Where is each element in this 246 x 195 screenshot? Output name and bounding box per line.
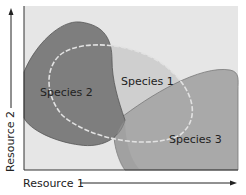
x-arrow-icon xyxy=(230,181,237,186)
species-1-label: Species 1 xyxy=(121,75,174,88)
x-axis-label: Resource 1 xyxy=(23,177,84,190)
y-axis-label: Resource 2 xyxy=(4,111,17,172)
species-3-label: Species 3 xyxy=(169,133,222,146)
species-2-label: Species 2 xyxy=(40,86,93,99)
y-arrow-icon xyxy=(9,8,14,15)
niche-overlap-diagram: Species 2 Species 1 Species 3 Resource 1… xyxy=(0,0,246,195)
